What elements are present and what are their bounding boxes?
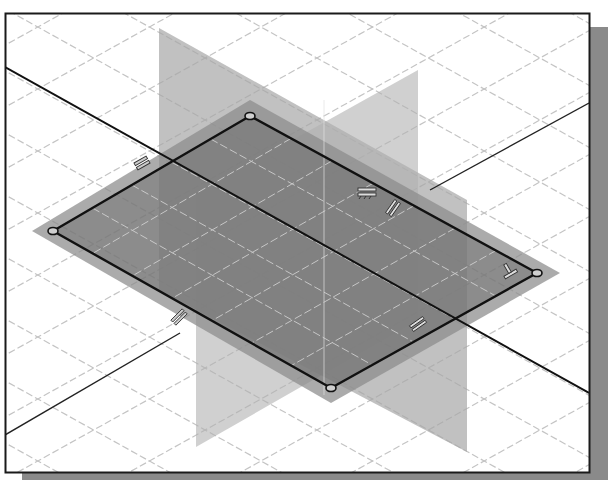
frame-shadow-right: [590, 27, 608, 480]
vertex-left[interactable]: [48, 228, 58, 235]
frame-shadow-bottom: [22, 473, 608, 480]
vertex-top[interactable]: [245, 113, 255, 120]
viewport-canvas[interactable]: [0, 0, 608, 480]
cad-viewport[interactable]: [0, 0, 608, 480]
vertex-bottom[interactable]: [326, 385, 336, 392]
vertex-right[interactable]: [532, 270, 542, 277]
